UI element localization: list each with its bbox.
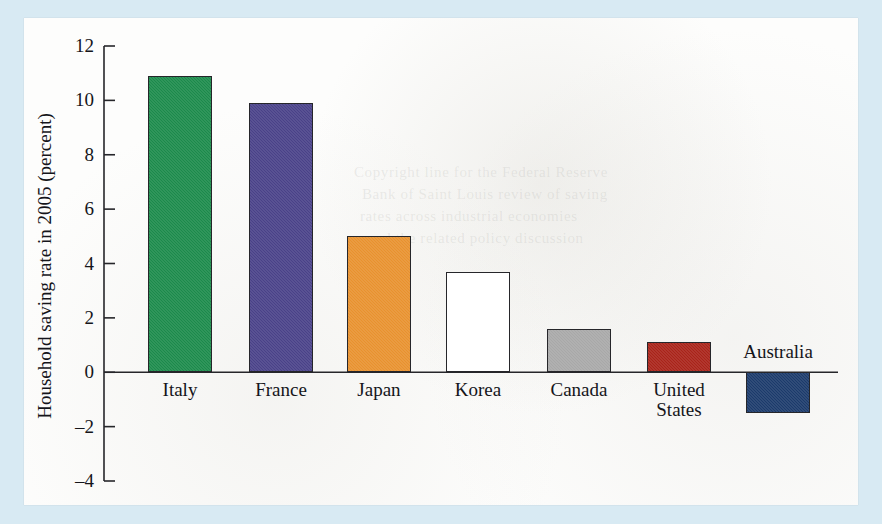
bar-fill-texture <box>250 104 312 371</box>
x-axis-label-line: United <box>614 380 744 400</box>
bar-fill-texture <box>747 373 809 412</box>
bar-france[interactable] <box>249 103 313 372</box>
x-axis-label-line: States <box>614 400 744 420</box>
bar-japan[interactable] <box>347 236 411 372</box>
bar-chart: Household saving rate in 2005 (percent) … <box>0 0 882 524</box>
bar-united-states[interactable] <box>647 342 711 372</box>
bar-canada[interactable] <box>547 329 611 373</box>
bar-australia[interactable] <box>746 372 810 413</box>
bar-korea[interactable] <box>446 272 510 373</box>
x-axis-label-united-states: UnitedStates <box>614 380 744 420</box>
bar-fill-texture <box>548 330 610 372</box>
figure-page: Copyright line for the Federal Reserve B… <box>0 0 882 524</box>
x-axis-label-australia: Australia <box>713 342 843 362</box>
bar-fill-texture <box>648 343 710 371</box>
plot-area <box>0 0 882 524</box>
bar-fill-texture <box>348 237 410 371</box>
bar-italy[interactable] <box>148 76 212 372</box>
x-axis-label-line: Australia <box>713 342 843 362</box>
bar-fill-texture <box>447 273 509 372</box>
bar-fill-texture <box>149 77 211 371</box>
